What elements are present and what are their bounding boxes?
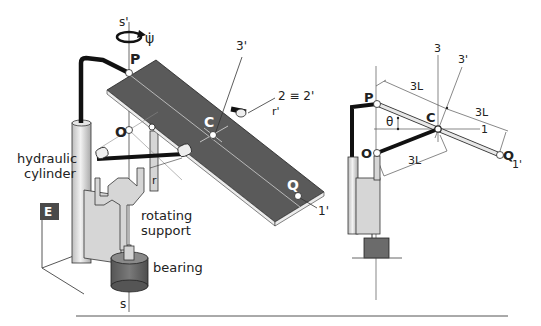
bearing-label: bearing bbox=[153, 260, 203, 275]
axis-1-label: 1 bbox=[481, 123, 488, 136]
right-figure-schematic: 3 3' 1 θ 3L 3L 3L bbox=[348, 42, 522, 300]
point-o-label: O bbox=[115, 124, 127, 140]
svg-text:3L: 3L bbox=[408, 154, 422, 167]
left-figure-3d: s' s ψ̇ E bbox=[17, 15, 329, 312]
link-r-prime-label: r' bbox=[272, 105, 280, 118]
frame-e-label: E bbox=[44, 205, 52, 219]
rotating-support-label: rotating support bbox=[141, 208, 196, 238]
svg-text:3L: 3L bbox=[475, 106, 489, 119]
axis-3-label: 3 bbox=[434, 42, 441, 55]
axis-1-prime-label: 1' bbox=[318, 204, 329, 218]
solar-panel-plate bbox=[107, 60, 324, 226]
rotating-support-right bbox=[356, 178, 380, 234]
link-r-label: r bbox=[152, 174, 157, 187]
point-c-label: C bbox=[204, 114, 214, 130]
rotation-rate-label: ψ̇ bbox=[145, 30, 154, 46]
axis-s-label: s bbox=[120, 297, 126, 311]
point-c-right-label: C bbox=[426, 110, 436, 125]
dim-pc: 3L bbox=[376, 80, 447, 109]
axis-s-prime-label: s' bbox=[119, 15, 129, 29]
point-p-right-label: P bbox=[364, 90, 374, 105]
point-q-right-label: Q bbox=[503, 148, 514, 163]
point-c-right-marker bbox=[435, 126, 441, 132]
bearing-right bbox=[364, 238, 389, 258]
axis-3-prime-right-label: 3' bbox=[458, 53, 468, 66]
axis-2-label: 2 ≡ 2' bbox=[278, 89, 314, 103]
point-c-marker bbox=[210, 132, 217, 139]
rotation-arrow-icon bbox=[117, 30, 146, 42]
point-o-right-marker bbox=[374, 150, 381, 157]
hydraulic-cylinder-label: hydraulic cylinder bbox=[17, 151, 81, 181]
point-p-label: P bbox=[130, 51, 140, 67]
point-p-right-marker bbox=[374, 101, 381, 108]
svg-text:3L: 3L bbox=[410, 80, 424, 93]
axis-3-prime-label: 3' bbox=[236, 39, 247, 53]
theta-label: θ bbox=[386, 115, 393, 129]
link-r bbox=[97, 154, 184, 159]
point-q-label: Q bbox=[287, 177, 299, 193]
point-p-marker bbox=[126, 70, 133, 77]
point-o-right-label: O bbox=[361, 146, 372, 161]
axis-2-line bbox=[248, 98, 275, 113]
link-oc bbox=[377, 129, 438, 153]
